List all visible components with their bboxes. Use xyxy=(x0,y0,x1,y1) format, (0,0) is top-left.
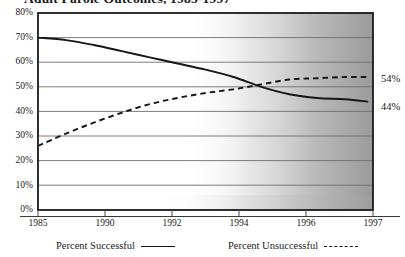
x-tick-1990: 1990 xyxy=(83,218,127,228)
chart-legend: Percent Successful Percent Unsuccessful xyxy=(0,236,400,257)
x-tick-1985: 1985 xyxy=(16,218,60,228)
x-tick-1997: 1997 xyxy=(351,218,395,228)
x-tick-1996: 1996 xyxy=(284,218,328,228)
end-label-successful: 44% xyxy=(381,101,405,112)
legend-label-unsuccessful: Percent Unsuccessful xyxy=(228,240,318,252)
legend-dashed-line-icon xyxy=(324,246,358,247)
x-tick-1994: 1994 xyxy=(217,218,261,228)
legend-item-successful: Percent Successful xyxy=(56,240,175,252)
x-tick-1992: 1992 xyxy=(150,218,194,228)
legend-item-unsuccessful: Percent Unsuccessful xyxy=(228,240,358,252)
end-label-unsuccessful: 54% xyxy=(381,73,405,84)
legend-label-successful: Percent Successful xyxy=(56,240,135,252)
legend-solid-line-icon xyxy=(141,246,175,247)
